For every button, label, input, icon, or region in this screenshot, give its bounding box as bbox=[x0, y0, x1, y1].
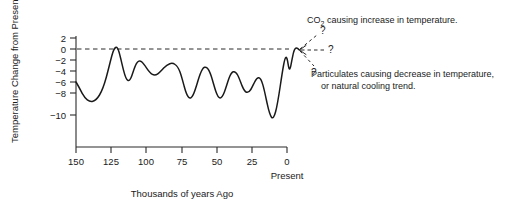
y-axis-ticks: 2 0 −2 −4 −6 −8 −10 bbox=[50, 33, 76, 121]
y-tick-label: −4 bbox=[55, 66, 66, 77]
steady-question-mark: ? bbox=[328, 44, 334, 55]
annotation-group: CO2 causing increase in temperature. Par… bbox=[307, 15, 494, 91]
co2-rest: causing increase in temperature. bbox=[324, 15, 457, 25]
chart-svg: Temperature Change from Present (°C) 2 0… bbox=[0, 0, 520, 210]
axis-lines bbox=[76, 36, 287, 147]
chart-figure: Temperature Change from Present (°C) 2 0… bbox=[0, 0, 520, 210]
x-tick-label: 50 bbox=[212, 156, 223, 167]
y-tick-label: 0 bbox=[61, 44, 66, 55]
x-axis-title-label: Thousands of years Ago bbox=[131, 188, 233, 199]
x-tick-label: 150 bbox=[68, 156, 84, 167]
x-tick-label: 100 bbox=[138, 156, 154, 167]
y-tick-label: −6 bbox=[55, 77, 66, 88]
co2-prefix: CO bbox=[307, 15, 321, 25]
y-axis-title: Temperature Change from Present (°C) bbox=[9, 0, 20, 143]
present-label: Present bbox=[271, 170, 304, 181]
y-tick-label: −2 bbox=[55, 55, 66, 66]
warming-annotation-label: CO2 causing increase in temperature. bbox=[307, 15, 457, 27]
y-axis-title-label: Temperature Change from Present (°C) bbox=[9, 0, 20, 143]
cooling-annotation-line1: Particulates causing decrease in tempera… bbox=[311, 69, 494, 79]
x-tick-label: 0 bbox=[284, 156, 289, 167]
cooling-branch-line bbox=[300, 51, 314, 66]
y-tick-label: −10 bbox=[50, 110, 66, 121]
x-tick-label: 75 bbox=[177, 156, 188, 167]
warming-branch-line bbox=[300, 35, 317, 49]
x-tick-label: 25 bbox=[247, 156, 258, 167]
y-tick-label: −8 bbox=[55, 88, 66, 99]
y-tick-label: 2 bbox=[61, 33, 66, 44]
temperature-curve bbox=[76, 47, 299, 117]
warming-question-mark: ? bbox=[320, 25, 326, 36]
cooling-annotation-line2: or natural cooling trend. bbox=[321, 81, 416, 91]
x-axis-ticks: 150 125 100 75 50 25 0 Present bbox=[68, 147, 304, 181]
x-tick-label: 125 bbox=[103, 156, 119, 167]
